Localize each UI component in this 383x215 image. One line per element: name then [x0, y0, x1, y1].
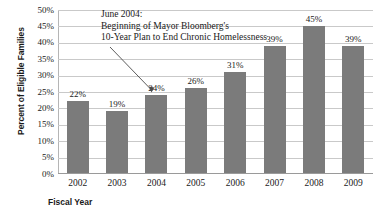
- bar-value-label: 24%: [148, 84, 165, 93]
- bar[interactable]: [185, 88, 207, 173]
- annotation-line-2: Beginning of Mayor Bloomberg's: [101, 21, 267, 33]
- x-axis-tick-labels: 20022003200420052006200720082009: [58, 178, 373, 192]
- x-axis-tick-label: 2007: [255, 178, 294, 189]
- x-axis-tick-label: 2008: [294, 178, 333, 189]
- annotation-line-1: June 2004:: [101, 9, 267, 21]
- y-axis-tick-label: 0%: [6, 170, 54, 179]
- june-2004-annotation: June 2004:Beginning of Mayor Bloomberg's…: [101, 9, 267, 44]
- y-axis-tick-label: 25%: [6, 88, 54, 97]
- bar-value-label: 39%: [266, 35, 283, 44]
- y-axis-tick-label: 40%: [6, 38, 54, 47]
- bar[interactable]: [106, 111, 128, 173]
- bar[interactable]: [145, 95, 167, 173]
- bar-group: 39%: [334, 10, 373, 173]
- bar-value-label: 22%: [69, 90, 86, 99]
- y-axis-tick-label: 5%: [6, 153, 54, 162]
- x-axis-title: Fiscal Year: [48, 197, 92, 207]
- bar[interactable]: [264, 46, 286, 173]
- x-axis-tick-label: 2003: [97, 178, 136, 189]
- bar-value-label: 31%: [227, 61, 244, 70]
- bar-group: 45%: [294, 10, 333, 173]
- bar[interactable]: [224, 72, 246, 173]
- x-axis-tick-label: 2005: [176, 178, 215, 189]
- bar-value-label: 39%: [345, 35, 362, 44]
- bar-value-label: 19%: [109, 100, 126, 109]
- y-axis-tick-label: 50%: [6, 6, 54, 15]
- y-axis-tick-label: 10%: [6, 137, 54, 146]
- y-axis-tick-label: 30%: [6, 71, 54, 80]
- bar[interactable]: [67, 101, 89, 173]
- x-axis-line: [58, 173, 373, 174]
- annotation-line-3: 10-Year Plan to End Chronic Homelessness: [101, 32, 267, 44]
- y-axis-tick-label: 20%: [6, 104, 54, 113]
- x-axis-tick-label: 2004: [137, 178, 176, 189]
- y-axis-tick-label: 45%: [6, 22, 54, 31]
- y-axis-tick-labels: 50%45%40%35%30%25%20%15%10%5%0%: [0, 10, 54, 174]
- bar[interactable]: [303, 26, 325, 173]
- bar[interactable]: [342, 46, 364, 173]
- bar-value-label: 26%: [188, 77, 205, 86]
- x-axis-tick-label: 2009: [334, 178, 373, 189]
- bar-chart: Percent of Eligible Families 50%45%40%35…: [0, 0, 383, 215]
- x-axis-tick-label: 2006: [216, 178, 255, 189]
- y-axis-tick-label: 15%: [6, 120, 54, 129]
- bar-value-label: 45%: [306, 15, 323, 24]
- y-axis-tick-label: 35%: [6, 55, 54, 64]
- bar-group: 22%: [58, 10, 97, 173]
- x-axis-tick-label: 2002: [58, 178, 97, 189]
